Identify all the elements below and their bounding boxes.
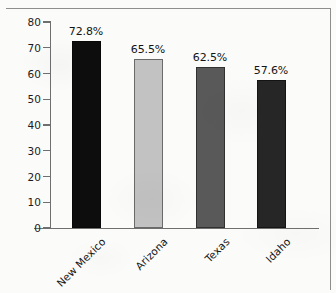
y-axis-tick-label: 60: [5, 69, 41, 80]
bar-value-label: 72.8%: [56, 26, 116, 37]
x-axis-category-label: New Mexico: [15, 236, 107, 293]
y-axis-tick-mark: [43, 227, 50, 228]
bar-new-mexico: [72, 41, 101, 228]
y-axis-tick-label: 70: [5, 43, 41, 54]
plot-area: 01020304050607080 72.8%65.5%62.5%57.6% N…: [0, 0, 336, 293]
y-axis-tick-mark: [43, 21, 50, 22]
bar-value-label: 57.6%: [241, 65, 301, 76]
y-axis-tick-mark: [43, 176, 50, 177]
y-axis-tick-mark: [43, 99, 50, 100]
y-axis-tick-mark: [43, 73, 50, 74]
y-axis-tick-label: 30: [5, 146, 41, 157]
y-axis-tick-mark: [43, 202, 50, 203]
y-axis-tick-mark: [43, 47, 50, 48]
y-axis-tick-label: 50: [5, 94, 41, 105]
bar-texas: [196, 67, 225, 228]
bar-arizona: [134, 59, 163, 228]
x-axis-line: [34, 228, 319, 229]
y-axis-tick-label: 10: [5, 197, 41, 208]
bar-value-label: 65.5%: [118, 44, 178, 55]
y-axis-tick-label: 0: [5, 223, 41, 234]
y-axis-tick-label: 80: [5, 17, 41, 28]
y-axis-tick-mark: [43, 150, 50, 151]
y-axis-tick-mark: [43, 124, 50, 125]
y-axis-tick-label: 20: [5, 172, 41, 183]
bar-idaho: [257, 80, 286, 228]
bar-chart-figure: 01020304050607080 72.8%65.5%62.5%57.6% N…: [0, 0, 336, 293]
y-axis-line: [50, 21, 51, 229]
y-axis-tick-label: 40: [5, 120, 41, 131]
bar-value-label: 62.5%: [180, 52, 240, 63]
